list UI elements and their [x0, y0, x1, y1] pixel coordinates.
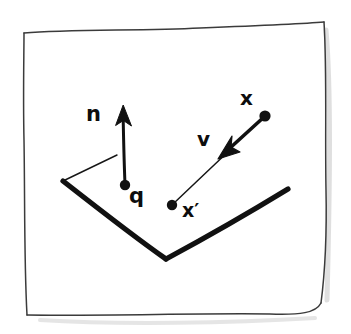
- label-point-q: q: [129, 186, 144, 207]
- sketch-canvas: [0, 0, 351, 334]
- point-x-prime: [167, 200, 177, 210]
- velocity-vector: [218, 117, 264, 159]
- label-velocity-v: v: [197, 129, 210, 149]
- label-point-x: x: [240, 88, 253, 108]
- figure-container: n q v x x′: [0, 0, 351, 334]
- v-surface: [63, 181, 288, 259]
- label-normal-n: n: [86, 104, 101, 125]
- sketch-border: [24, 22, 327, 315]
- label-point-x-prime: x′: [182, 201, 199, 220]
- paper-shadow: [40, 30, 330, 323]
- point-x: [259, 110, 270, 121]
- surface-depth-edge: [63, 155, 117, 181]
- normal-vector: [116, 105, 132, 184]
